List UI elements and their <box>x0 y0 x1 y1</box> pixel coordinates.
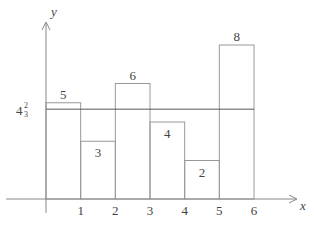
bar-value-label: 2 <box>199 165 206 180</box>
y-axis-label: y <box>49 4 57 19</box>
x-tick-labels: 123456 <box>77 203 257 218</box>
svg-text:3: 3 <box>24 110 28 119</box>
x-tick-label: 2 <box>112 203 119 218</box>
svg-text:4: 4 <box>16 103 23 118</box>
mean-label: 4 2 3 <box>16 101 28 119</box>
bar-value-label: 5 <box>60 87 67 102</box>
histogram-bar <box>115 84 150 200</box>
histogram-bar <box>219 45 254 199</box>
x-tick-label: 5 <box>216 203 223 218</box>
histogram-bar <box>46 103 81 199</box>
x-tick-label: 1 <box>77 203 84 218</box>
bar-value-label: 6 <box>129 68 136 83</box>
x-tick-label: 6 <box>251 203 258 218</box>
svg-text:2: 2 <box>24 101 28 110</box>
bar-value-label: 4 <box>164 126 171 141</box>
bar-value-label: 3 <box>95 145 102 160</box>
bars-group <box>46 45 254 199</box>
x-tick-label: 3 <box>147 203 154 218</box>
histogram-chart: x y 123456 4 2 3 536428 <box>0 0 314 232</box>
x-tick-label: 4 <box>181 203 188 218</box>
bar-value-label: 8 <box>233 29 240 44</box>
x-axis-label: x <box>299 198 306 213</box>
